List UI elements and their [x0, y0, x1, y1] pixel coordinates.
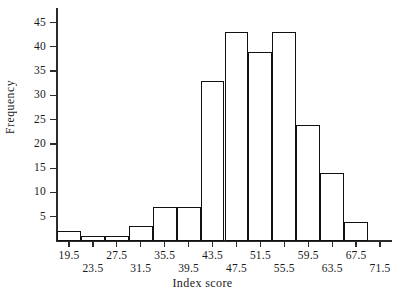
x-axis-tick — [260, 241, 261, 247]
y-axis-tick — [50, 70, 57, 71]
x-axis-tick — [212, 241, 213, 247]
x-axis-tick — [355, 241, 356, 247]
x-axis-tick — [164, 241, 165, 247]
x-axis-tick — [188, 241, 189, 247]
y-axis-tick-label: 15 — [16, 162, 46, 174]
y-axis-tick — [50, 22, 57, 23]
x-axis-tick — [116, 241, 117, 247]
x-axis-tick-label: 71.5 — [360, 262, 400, 274]
x-axis-tick-label: 35.5 — [145, 249, 185, 261]
y-axis-tick-label: 30 — [16, 89, 46, 101]
histogram-bar — [81, 236, 105, 241]
histogram-bar — [105, 236, 129, 241]
histogram-bar — [296, 125, 320, 242]
y-axis-tick — [50, 216, 57, 217]
histogram-bar — [129, 226, 153, 241]
y-axis-tick — [50, 192, 57, 193]
y-axis-tick — [50, 168, 57, 169]
x-axis-tick-label: 67.5 — [336, 249, 376, 261]
histogram-bar — [177, 207, 201, 241]
x-axis-tick — [379, 241, 380, 247]
x-axis-tick — [140, 241, 141, 247]
y-axis-tick-label: 5 — [16, 211, 46, 223]
y-axis-tick-label: 20 — [16, 138, 46, 150]
histogram-bars — [57, 8, 392, 241]
x-axis-tick-label: 31.5 — [121, 262, 161, 274]
y-axis-tick — [50, 143, 57, 144]
x-axis-tick-label: 47.5 — [216, 262, 256, 274]
histogram-bar — [153, 207, 177, 241]
y-axis-tick-label: 35 — [16, 65, 46, 77]
x-axis-tick-label: 63.5 — [312, 262, 352, 274]
x-axis-tick-label: 51.5 — [240, 249, 280, 261]
histogram-bar — [248, 52, 272, 241]
histogram-bar — [57, 231, 81, 241]
histogram-bar — [272, 32, 296, 241]
histogram-figure: Frequency 51015202530354045 19.523.527.5… — [0, 0, 405, 297]
y-axis-tick-label: 25 — [16, 114, 46, 126]
x-axis-tick — [332, 241, 333, 247]
histogram-bar — [320, 173, 344, 241]
x-axis-tick-label: 59.5 — [288, 249, 328, 261]
y-axis-tick — [50, 95, 57, 96]
histogram-bar — [201, 81, 225, 241]
y-axis-tick — [50, 119, 57, 120]
y-axis-tick — [50, 46, 57, 47]
x-axis-tick-label: 19.5 — [49, 249, 89, 261]
x-axis-tick-label: 23.5 — [73, 262, 113, 274]
x-axis-tick — [68, 241, 69, 247]
x-axis-title: Index score — [0, 276, 405, 291]
x-axis-tick — [308, 241, 309, 247]
y-axis-tick-label: 45 — [16, 17, 46, 29]
y-axis-tick-label: 40 — [16, 41, 46, 53]
y-axis-tick-label: 10 — [16, 186, 46, 198]
histogram-bar — [344, 222, 368, 241]
x-axis-tick — [236, 241, 237, 247]
x-axis-tick-label: 55.5 — [264, 262, 304, 274]
y-axis-title: Frequency — [4, 80, 22, 134]
histogram-bar — [225, 32, 249, 241]
x-axis-tick — [92, 241, 93, 247]
x-axis-tick-label: 39.5 — [169, 262, 209, 274]
x-axis-tick-label: 43.5 — [193, 249, 233, 261]
x-axis-tick-label: 27.5 — [97, 249, 137, 261]
x-axis-tick — [284, 241, 285, 247]
